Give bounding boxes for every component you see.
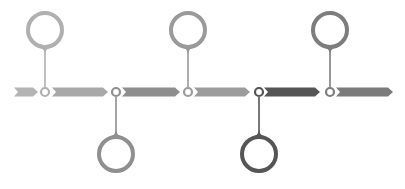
timeline-arrow-segment-6 (336, 88, 393, 97)
milestone-node-icon (255, 88, 263, 96)
timeline-arrow-segment-2 (52, 88, 108, 97)
milestone-node-icon (112, 88, 120, 96)
milestone-node-icon (41, 88, 49, 96)
milestone-node-icon (326, 88, 334, 96)
milestone-circle-icon (28, 13, 62, 47)
milestone-pin-join (326, 48, 334, 55)
milestone-5 (313, 13, 347, 96)
milestone-pin-join (255, 129, 263, 136)
milestone-pin-join (184, 48, 192, 55)
milestone-pin-join (112, 129, 120, 136)
milestone-circle-icon (313, 13, 347, 47)
timeline-arrow-segment-3 (122, 88, 180, 97)
milestone-4 (242, 88, 276, 171)
milestone-pin-join (41, 48, 49, 55)
milestone-circle-icon (242, 137, 276, 171)
timeline-arrow-segment-5 (264, 88, 320, 97)
milestone-1 (28, 13, 62, 96)
milestone-2 (99, 88, 133, 171)
timeline-arrow-segment-1 (14, 88, 38, 97)
milestone-3 (171, 13, 205, 96)
timeline-arrow-segment-4 (194, 88, 250, 97)
timeline-canvas (0, 0, 405, 189)
milestone-node-icon (184, 88, 192, 96)
milestone-circle-icon (171, 13, 205, 47)
timeline-diagram (0, 0, 405, 189)
milestone-circle-icon (99, 137, 133, 171)
